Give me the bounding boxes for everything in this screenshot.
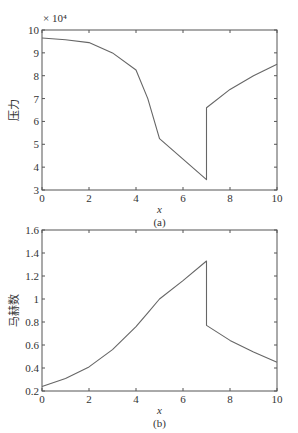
y-tick-label: 10: [28, 24, 40, 36]
x-tick-label: 4: [133, 192, 139, 204]
y-multiplier: × 10⁴: [43, 12, 67, 24]
axes-frame: [42, 230, 277, 391]
data-line-pressure: [42, 38, 277, 180]
panel-caption: (a): [153, 216, 166, 229]
y-tick-label: 9: [34, 47, 40, 59]
x-tick-label: 8: [227, 192, 233, 204]
x-tick-label: 10: [272, 393, 284, 405]
x-axis-label: x: [156, 404, 162, 416]
y-tick-label: 0.6: [25, 339, 39, 351]
y-tick-label: 1.4: [25, 247, 39, 259]
y-tick-label: 1.6: [25, 224, 39, 236]
y-tick-label: 4: [34, 161, 40, 173]
y-tick-label: 0.8: [25, 316, 39, 328]
y-tick-label: 0.4: [25, 362, 39, 374]
figure: 0246810345678910× 10⁴x(a)压力02468100.20.4…: [0, 0, 298, 433]
y-tick-label: 1.2: [25, 270, 39, 282]
y-tick-label: 6: [34, 115, 40, 127]
axes-frame: [42, 30, 277, 190]
x-tick-label: 6: [180, 192, 186, 204]
x-tick-label: 2: [86, 393, 92, 405]
y-tick-label: 8: [34, 70, 40, 82]
y-tick-label: 3: [34, 184, 40, 196]
panel-caption: (b): [153, 417, 166, 430]
y-tick-label: 0.2: [25, 385, 39, 397]
x-tick-label: 8: [227, 393, 233, 405]
chart-panel-b: 02468100.20.40.60.811.21.41.6x(b)马赫数: [8, 224, 283, 430]
y-axis-label: 马赫数: [8, 294, 21, 327]
x-axis-label: x: [156, 203, 162, 215]
y-axis-label: 压力: [8, 99, 21, 121]
chart-panel-a: 0246810345678910× 10⁴x(a)压力: [8, 12, 283, 229]
x-tick-label: 0: [39, 393, 45, 405]
y-tick-label: 7: [34, 93, 40, 105]
x-tick-label: 4: [133, 393, 139, 405]
y-tick-label: 1: [34, 293, 40, 305]
x-tick-label: 2: [86, 192, 92, 204]
x-tick-label: 10: [272, 192, 284, 204]
data-line-mach: [42, 261, 277, 386]
y-tick-label: 5: [34, 138, 40, 150]
x-tick-label: 6: [180, 393, 186, 405]
x-tick-label: 0: [39, 192, 45, 204]
